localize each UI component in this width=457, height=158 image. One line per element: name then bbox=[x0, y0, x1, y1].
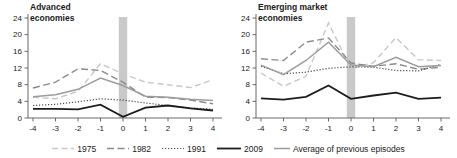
x-tick-label: -4 bbox=[257, 124, 265, 133]
chart-panels: Advanced economies 04812162024-4-3-2-101… bbox=[0, 0, 457, 140]
panel-emerging-market-economies: Emerging market economies 04812162024-4-… bbox=[228, 0, 456, 140]
panel-title-line-1: Emerging market bbox=[258, 2, 327, 13]
legend-label: 2009 bbox=[244, 144, 263, 154]
y-tick-label: 0 bbox=[246, 114, 251, 123]
x-tick-label: -2 bbox=[302, 124, 310, 133]
legend-label: 1982 bbox=[132, 144, 151, 154]
x-tick-label: 3 bbox=[416, 124, 421, 133]
y-tick-label: 16 bbox=[13, 47, 22, 56]
x-tick-label: 4 bbox=[211, 124, 216, 133]
legend-swatch-1991-icon bbox=[162, 144, 184, 153]
y-tick-label: 20 bbox=[13, 30, 22, 39]
panel-advanced-economies: Advanced economies 04812162024-4-3-2-101… bbox=[0, 0, 228, 140]
y-tick-label: 0 bbox=[18, 114, 23, 123]
legend-label: 1975 bbox=[77, 144, 96, 154]
y-tick-label: 12 bbox=[241, 64, 250, 73]
x-tick-label: -4 bbox=[29, 124, 37, 133]
panel-title-line-1: Advanced bbox=[30, 2, 74, 13]
panel-title-emerging: Emerging market economies bbox=[258, 2, 327, 23]
y-tick-label: 8 bbox=[18, 80, 23, 89]
legend-swatch-1975-icon bbox=[52, 144, 74, 153]
panel-title-line-2: economies bbox=[258, 13, 327, 24]
x-tick-label: -3 bbox=[280, 124, 288, 133]
legend-label: 1991 bbox=[187, 144, 206, 154]
x-tick-label: 2 bbox=[166, 124, 171, 133]
shaded-band-episode-start bbox=[119, 17, 127, 118]
legend-item-2009: 2009 bbox=[217, 144, 263, 154]
x-tick-label: 0 bbox=[121, 124, 126, 133]
x-tick-label: 4 bbox=[439, 124, 444, 133]
y-tick-label: 24 bbox=[13, 14, 22, 23]
chart-legend: 1975 1982 1991 2009 Average of previous … bbox=[0, 140, 457, 157]
y-tick-label: 12 bbox=[13, 64, 22, 73]
legend-item-1975: 1975 bbox=[52, 144, 96, 154]
legend-item-1991: 1991 bbox=[162, 144, 206, 154]
legend-label: Average of previous episodes bbox=[293, 144, 405, 154]
dual-line-chart-figure: Advanced economies 04812162024-4-3-2-101… bbox=[0, 0, 457, 158]
x-tick-label: 3 bbox=[188, 124, 193, 133]
x-tick-label: 0 bbox=[349, 124, 354, 133]
x-tick-label: 1 bbox=[371, 124, 376, 133]
x-tick-label: -2 bbox=[74, 124, 82, 133]
x-tick-label: -1 bbox=[97, 124, 105, 133]
legend-item-average: Average of previous episodes bbox=[274, 144, 405, 154]
y-tick-label: 4 bbox=[18, 97, 23, 106]
x-tick-label: -1 bbox=[325, 124, 333, 133]
y-tick-label: 24 bbox=[241, 14, 250, 23]
y-tick-label: 16 bbox=[241, 47, 250, 56]
legend-swatch-1982-icon bbox=[107, 144, 129, 153]
y-tick-label: 4 bbox=[246, 97, 251, 106]
x-tick-label: 2 bbox=[394, 124, 399, 133]
panel-title-advanced: Advanced economies bbox=[30, 2, 74, 23]
legend-swatch-2009-icon bbox=[217, 144, 241, 153]
x-tick-label: -3 bbox=[52, 124, 60, 133]
legend-swatch-average-icon bbox=[274, 144, 290, 153]
legend-item-1982: 1982 bbox=[107, 144, 151, 154]
x-tick-label: 1 bbox=[143, 124, 148, 133]
y-tick-label: 8 bbox=[246, 80, 251, 89]
y-tick-label: 20 bbox=[241, 30, 250, 39]
panel-title-line-2: economies bbox=[30, 13, 74, 24]
